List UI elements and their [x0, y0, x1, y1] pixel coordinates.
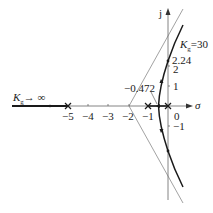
tick-label-1: 1: [173, 81, 179, 92]
locus-arrow-dot: [49, 105, 52, 108]
imag-crossing-label: 2.24: [172, 55, 191, 66]
imag-crossing-point-upper: [167, 60, 170, 63]
imag-crossing-point-lower: [167, 150, 170, 153]
gain-infinity-label: Kg→ ∞: [13, 92, 45, 106]
tick-label-neg-1-imag: −1: [173, 121, 185, 132]
real-axis-arrow-icon: [186, 104, 193, 109]
real-axis-label: σ: [195, 100, 200, 111]
tick-label-neg3: −3: [102, 111, 114, 122]
tick-label-neg5: −5: [62, 111, 74, 122]
breakaway-label: −0.472: [124, 83, 155, 94]
root-locus-diagram: j σ −5 −4 −3 −2 −1 0 2 1 −1 2.24 Kg=30 −…: [0, 0, 213, 213]
imag-axis-label: j: [159, 8, 162, 19]
imag-axis-arrow-icon: [166, 8, 171, 15]
tick-label-neg1: −1: [142, 111, 154, 122]
tick-label-neg4: −4: [82, 111, 94, 122]
root-locus-plot: [0, 0, 213, 213]
tick-label-neg2: −2: [122, 111, 134, 122]
gain-at-crossing-label: Kg=30: [180, 39, 208, 53]
